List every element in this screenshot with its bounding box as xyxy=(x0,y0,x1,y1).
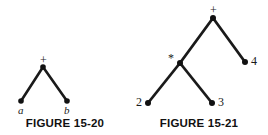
tree-node-leaf-3 xyxy=(209,100,215,106)
tree-node-leaf-2 xyxy=(145,100,151,106)
tree-node-root xyxy=(40,64,46,70)
tree-node-leaf-b xyxy=(64,98,70,104)
tree-edge-root-to-4 xyxy=(213,18,245,62)
figure-caption-15-20: FIGURE 15-20 xyxy=(0,117,130,129)
tree-nodes xyxy=(145,15,248,106)
figure-panel-15-20: + a b FIGURE 15-20 xyxy=(0,0,130,135)
tree-diagram-15-20 xyxy=(0,0,130,135)
tree-node-leaf-4 xyxy=(242,59,248,65)
figure-caption-15-21: FIGURE 15-21 xyxy=(130,117,268,129)
figure-panel-15-21: + * 2 3 4 FIGURE 15-21 xyxy=(130,0,268,135)
tree-node-leaf-a xyxy=(18,98,24,104)
tree-edges xyxy=(148,18,245,103)
figure-plate: + a b FIGURE 15-20 + * 2 3 4 xyxy=(0,0,268,135)
tree-edge-mul-to-2 xyxy=(148,63,180,103)
tree-edges xyxy=(21,67,67,101)
tree-node-multiply xyxy=(177,60,183,66)
tree-edge-root-to-a xyxy=(21,67,43,101)
tree-diagram-15-21 xyxy=(130,0,268,135)
tree-edge-root-to-mul xyxy=(180,18,213,63)
tree-edge-mul-to-3 xyxy=(180,63,212,103)
tree-node-root xyxy=(210,15,216,21)
tree-edge-root-to-b xyxy=(43,67,67,101)
